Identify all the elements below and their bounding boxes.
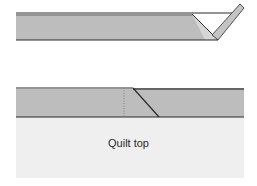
- quilt-top-label: Quilt top: [0, 137, 257, 149]
- bottom-binding-strip: [16, 88, 244, 117]
- top-binding-strip: [16, 4, 244, 40]
- binding-diagram: [0, 0, 257, 186]
